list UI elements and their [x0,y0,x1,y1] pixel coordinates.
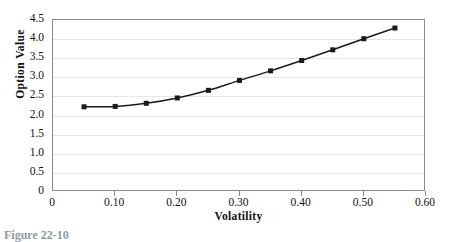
data-point-marker [82,104,87,109]
data-point-marker [206,88,211,93]
y-axis-tick-label: 3.0 [0,70,44,82]
data-point-marker [268,68,273,73]
y-axis-tick-label: 1.0 [0,147,44,159]
data-point-marker [144,101,149,106]
x-axis-tick-label: 0.40 [276,196,326,208]
y-axis-tick-label: 2.0 [0,109,44,121]
x-axis-title: Volatility [52,210,425,222]
x-axis-tick-label: 0.50 [338,196,388,208]
data-point-marker [361,36,366,41]
data-point-marker [113,104,118,109]
x-axis-tick-label: 0.20 [151,196,201,208]
x-axis-tick-label: 0.60 [400,196,450,208]
y-axis-tick-label: 3.5 [0,51,44,63]
y-axis-tick-label: 4.5 [0,13,44,25]
data-point-marker [299,58,304,63]
data-series-svg [53,20,426,192]
data-point-marker [330,47,335,52]
figure-caption: Figure 22-10 [4,229,69,242]
data-point-marker [237,78,242,83]
data-point-marker [175,95,180,100]
series-line [84,28,395,107]
y-axis-tick-label: 1.5 [0,128,44,140]
x-axis-tick-label: 0.30 [214,196,264,208]
y-axis-tick-label: 2.5 [0,89,44,101]
x-axis-tick-label: 0 [27,196,77,208]
x-axis-tick-label: 0.10 [89,196,139,208]
data-point-marker [392,26,397,31]
y-axis-tick-label: 0.5 [0,166,44,178]
y-axis-tick-label: 0 [0,185,44,197]
plot-area [52,19,425,191]
y-axis-tick-label: 4.0 [0,32,44,44]
